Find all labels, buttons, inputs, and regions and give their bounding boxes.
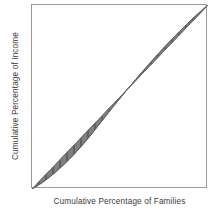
x-axis-label: Cumulative Percentage of Families [31, 197, 208, 206]
y-axis-label: Cumulative Percentage of Income [9, 4, 23, 188]
plot-area [31, 4, 207, 188]
lorenz-curve-plot [32, 5, 208, 189]
lorenz-curve-figure: Cumulative Percentage of Income [0, 0, 220, 215]
equality-line [32, 5, 208, 189]
